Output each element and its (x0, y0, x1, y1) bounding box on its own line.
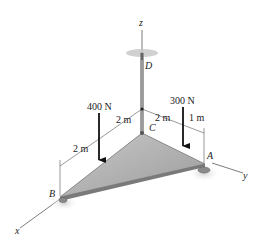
dim-400n-to-b: 2 m (73, 144, 88, 154)
dim-c-to-400n: 2 m (116, 115, 131, 125)
z-axis-label: z (139, 18, 143, 28)
point-b-label: B (49, 189, 55, 199)
point-a-label: A (207, 151, 213, 161)
y-axis-label: y (243, 171, 247, 181)
point-d-label: D (145, 61, 152, 71)
force-400n-label: 400 N (87, 102, 112, 112)
dim-c-to-300n: 2 m (155, 113, 170, 123)
dimension-origin-marker (141, 108, 144, 111)
dim-300n-to-a: 1 m (189, 113, 204, 123)
point-c-label: C (149, 123, 156, 133)
x-axis-label: x (15, 226, 19, 236)
force-300n-label: 300 N (170, 96, 195, 106)
diagram-canvas (0, 0, 264, 247)
pole-cd (141, 53, 144, 133)
support-b (59, 198, 67, 203)
support-a (198, 167, 210, 173)
joint-c (140, 131, 144, 135)
